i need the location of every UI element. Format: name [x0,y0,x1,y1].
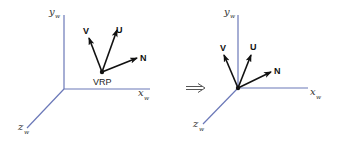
right-z-axis-label: z [192,118,199,129]
left-vrp-point [100,70,104,74]
left-n-vector [102,58,137,72]
left-z-axis [27,89,64,128]
left-u-label: U [116,25,123,35]
left-v-vector [89,38,102,72]
right-v-vector [224,55,238,88]
left-u-vector [102,30,117,72]
left-world-frame: y w x w z w V U N VRP [17,6,150,135]
right-u-label: U [250,42,257,52]
implies-arrow-icon [186,84,205,93]
right-v-label: V [220,43,226,53]
right-z-axis-subscript: w [199,125,205,132]
right-y-axis-subscript: w [230,12,236,19]
left-z-axis-subscript: w [24,128,30,135]
left-y-axis-label: y [48,6,55,17]
viewing-coordinate-diagram: y w x w z w V U N VRP y w x w z w V [0,0,339,144]
left-x-axis-subscript: w [144,94,150,101]
left-y-axis-subscript: w [55,12,61,19]
right-x-axis-subscript: w [316,93,322,100]
right-world-frame: y w x w z w V U N [192,6,322,132]
right-n-label: N [274,66,281,76]
right-origin-point [236,86,240,90]
vrp-label: VRP [93,77,112,87]
left-n-label: N [140,53,147,63]
right-y-axis-label: y [223,6,230,17]
right-z-axis [203,88,238,124]
left-z-axis-label: z [17,121,24,132]
left-v-label: V [83,26,89,36]
